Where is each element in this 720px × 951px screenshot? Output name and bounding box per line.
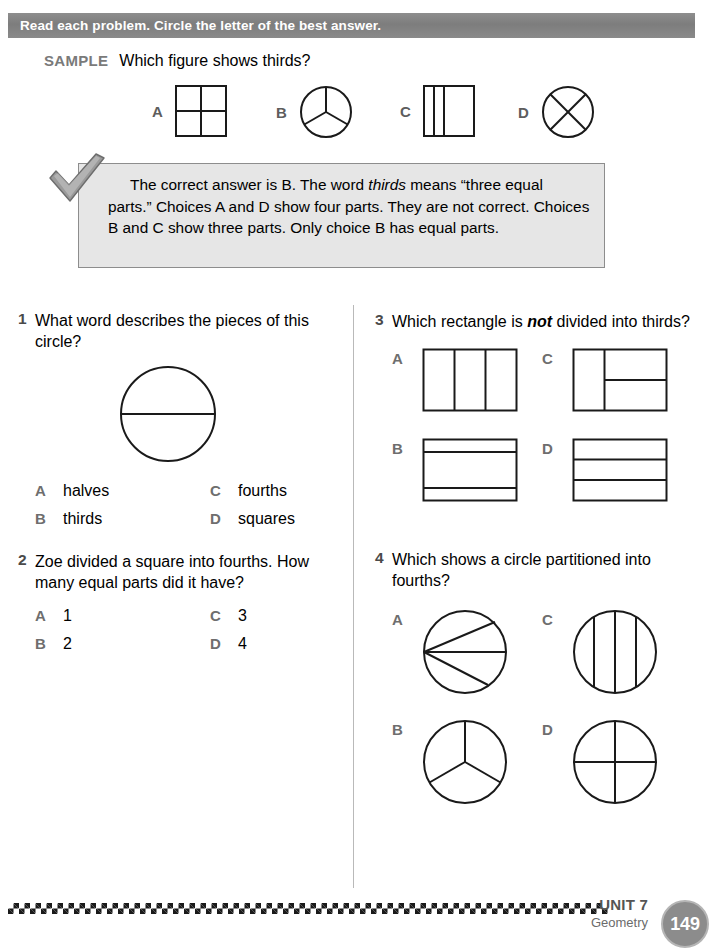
question-2-text: Zoe divided a square into fourths. How m… (35, 551, 338, 593)
circle-divided-fourths-cross-icon (572, 719, 658, 805)
question-3-number: 3 (375, 311, 392, 329)
question-1-option-b-letter: B (35, 510, 63, 527)
question-2-number: 2 (18, 551, 35, 569)
sample-question-text: Which figure shows thirds? (119, 52, 310, 70)
question-4-option-d[interactable]: D (542, 719, 658, 805)
square-three-unequal-vertical-strips-icon (422, 84, 476, 138)
circle-divided-thirds-icon (298, 84, 354, 140)
sample-question-row: SAMPLE Which figure shows thirds? (44, 52, 311, 70)
question-4: 4 Which shows a circle partitioned into … (375, 549, 695, 823)
rectangle-left-band-right-split-horizontal-icon (572, 348, 668, 412)
question-4-option-c[interactable]: C (542, 609, 658, 695)
explanation-text: The correct answer is B. The word thirds… (108, 174, 590, 239)
question-2-option-a-letter: A (35, 607, 63, 624)
question-3-option-d[interactable]: D (542, 438, 668, 502)
question-2-option-b[interactable]: B 2 (35, 635, 210, 653)
question-3-option-c-letter: C (542, 348, 572, 367)
question-3-text: Which rectangle is not divided into thir… (392, 311, 690, 332)
question-3-option-c[interactable]: C (542, 348, 668, 412)
rectangle-three-unequal-horizontal-bands-icon (422, 438, 518, 502)
question-1-option-b[interactable]: B thirds (35, 510, 210, 528)
question-3-option-b[interactable]: B (392, 438, 518, 502)
question-3-option-a-letter: A (392, 348, 422, 367)
question-1-option-c[interactable]: C fourths (210, 482, 338, 500)
question-1-option-c-value: fourths (238, 482, 287, 500)
sample-choice-c-letter: C (400, 103, 411, 120)
sample-choices: A B C (152, 84, 592, 146)
question-1-option-a-letter: A (35, 482, 63, 499)
page-number-badge: 149 (661, 900, 709, 948)
footer-unit-info: UNIT 7 Geometry (591, 896, 648, 931)
explanation-italic-word: thirds (368, 176, 406, 193)
question-1-text: What word describes the pieces of this c… (35, 310, 338, 352)
instruction-text: Read each problem. Circle the letter of … (8, 18, 381, 33)
rectangle-three-vertical-thirds-icon (422, 348, 518, 412)
question-1-number: 1 (18, 310, 35, 328)
question-2-head: 2 Zoe divided a square into fourths. How… (18, 551, 338, 593)
question-1-option-c-letter: C (210, 482, 238, 499)
question-3-emphasis: not (527, 313, 552, 330)
question-4-option-d-letter: D (542, 719, 572, 738)
question-2-option-a-value: 1 (63, 607, 72, 625)
question-2-options: A 1 C 3 B 2 D 4 (35, 607, 338, 653)
question-2: 2 Zoe divided a square into fourths. How… (18, 551, 338, 653)
question-1-option-a[interactable]: A halves (35, 482, 210, 500)
question-4-head: 4 Which shows a circle partitioned into … (375, 549, 695, 591)
question-4-option-a-letter: A (392, 609, 422, 628)
circle-divided-thirds-y-shape-icon (422, 719, 508, 805)
question-4-option-b-letter: B (392, 719, 422, 738)
question-2-option-b-value: 2 (63, 635, 72, 653)
question-4-options: A C B (392, 603, 695, 823)
question-4-text: Which shows a circle partitioned into fo… (392, 549, 695, 591)
circle-three-vertical-chords-icon (572, 609, 658, 695)
circle-three-chords-from-left-point-icon (422, 609, 508, 695)
footer-unit-subject: Geometry (591, 914, 648, 931)
rectangle-three-horizontal-thirds-icon (572, 438, 668, 502)
question-3-text-after: divided into thirds? (552, 313, 690, 330)
question-2-option-a[interactable]: A 1 (35, 607, 210, 625)
question-2-option-d-letter: D (210, 635, 238, 652)
circle-divided-fourths-diagonal-icon (540, 84, 596, 140)
question-2-option-c-letter: C (210, 607, 238, 624)
footer-checkerboard-divider (8, 903, 608, 914)
question-1-options: A halves C fourths B thirds D squares (35, 482, 338, 528)
sample-choice-d-letter: D (518, 104, 529, 121)
question-1: 1 What word describes the pieces of this… (18, 310, 338, 528)
question-3-text-before: Which rectangle is (392, 313, 527, 330)
question-1-option-d-value: squares (238, 510, 295, 528)
sample-choice-a-letter: A (152, 103, 163, 120)
question-1-head: 1 What word describes the pieces of this… (18, 310, 338, 352)
question-1-option-a-value: halves (63, 482, 109, 500)
question-3: 3 Which rectangle is not divided into th… (375, 311, 695, 514)
column-divider (353, 305, 354, 888)
question-3-head: 3 Which rectangle is not divided into th… (375, 311, 695, 332)
question-2-option-c-value: 3 (238, 607, 247, 625)
question-1-option-d-letter: D (210, 510, 238, 527)
circle-split-in-half-horizontal-icon (118, 364, 338, 468)
question-4-option-c-letter: C (542, 609, 572, 628)
sample-choice-b-letter: B (276, 104, 287, 121)
page-number: 149 (670, 914, 699, 935)
question-4-option-a[interactable]: A (392, 609, 508, 695)
question-4-option-b[interactable]: B (392, 719, 508, 805)
question-2-option-d[interactable]: D 4 (210, 635, 338, 653)
question-3-options: A C B (392, 344, 695, 514)
question-3-option-b-letter: B (392, 438, 422, 457)
explanation-part-1: The correct answer is B. The word (130, 176, 368, 193)
square-divided-fourths-icon (174, 84, 228, 138)
footer-unit-name: UNIT 7 (591, 896, 648, 914)
sample-choice-c[interactable]: C (400, 84, 476, 138)
sample-choice-d[interactable]: D (518, 84, 596, 140)
sample-choice-b[interactable]: B (276, 84, 354, 140)
question-3-option-a[interactable]: A (392, 348, 518, 412)
question-1-option-b-value: thirds (63, 510, 102, 528)
question-4-number: 4 (375, 549, 392, 567)
question-2-option-c[interactable]: C 3 (210, 607, 338, 625)
question-3-option-d-letter: D (542, 438, 572, 457)
question-1-option-d[interactable]: D squares (210, 510, 338, 528)
question-2-option-d-value: 4 (238, 635, 247, 653)
instruction-bar: Read each problem. Circle the letter of … (8, 13, 695, 38)
sample-label: SAMPLE (44, 52, 108, 69)
checkmark-icon (46, 152, 108, 208)
sample-choice-a[interactable]: A (152, 84, 228, 138)
